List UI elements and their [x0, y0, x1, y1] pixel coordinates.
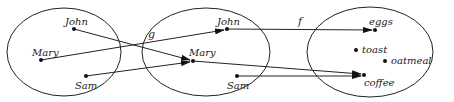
label-c-coffee: coffee — [364, 77, 395, 88]
label-b-john: John — [215, 16, 240, 27]
point-c-toast — [354, 48, 358, 52]
label-b-mary: Mary — [188, 47, 216, 58]
point-c-eggs — [373, 28, 377, 32]
label-a-john: John — [63, 16, 88, 27]
label-a-sam: Sam — [75, 80, 97, 91]
point-a-sam — [84, 74, 88, 78]
label-c-toast: toast — [362, 44, 388, 55]
arrow-f-mary-to-coffee — [193, 61, 361, 74]
point-c-oatmeal — [383, 59, 387, 63]
point-b-john — [225, 27, 229, 31]
point-b-sam — [235, 74, 239, 78]
function-label-g: g — [148, 28, 155, 41]
point-a-john — [72, 27, 76, 31]
set-a-ellipse — [7, 8, 121, 96]
point-b-mary — [191, 59, 195, 63]
label-c-oatmeal: oatmeal — [391, 55, 432, 66]
point-a-mary — [39, 58, 43, 62]
label-c-eggs: eggs — [369, 16, 393, 27]
label-a-mary: Mary — [31, 47, 59, 58]
arrow-g-john-to-mary — [74, 29, 190, 60]
label-b-sam: Sam — [227, 80, 249, 91]
function-label-f: f — [297, 15, 304, 28]
function-composition-diagram: g f John Mary Sam John Mary Sam eggs toa… — [0, 0, 454, 102]
arrow-f-john-to-eggs — [227, 29, 372, 30]
arrow-g-sam-to-mary — [86, 62, 190, 76]
